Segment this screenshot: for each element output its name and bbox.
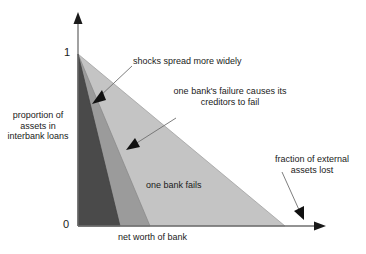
x-axis-arrowhead — [314, 222, 326, 231]
annotation-shocks-spread: shocks spread more widely — [133, 56, 242, 67]
x-axis-label: net worth of bank — [118, 232, 187, 243]
leader-fraction — [282, 172, 300, 212]
diagram-canvas: 1 0 proportion of assets in interbank lo… — [0, 0, 366, 254]
shaded-regions — [78, 54, 285, 226]
annotation-bank-failure: one bank's failure causes its creditors … — [172, 86, 288, 107]
y-axis-label: proportion of assets in interbank loans — [2, 110, 74, 142]
annotation-fraction-lost: fraction of external assets lost — [262, 154, 362, 175]
y-axis-arrowhead — [74, 12, 83, 24]
y-axis-tick-one: 1 — [64, 46, 70, 59]
leader-fraction-arrowhead — [294, 206, 304, 220]
origin-tick-zero: 0 — [63, 218, 69, 231]
annotation-one-bank-fails: one bank fails — [146, 180, 202, 191]
